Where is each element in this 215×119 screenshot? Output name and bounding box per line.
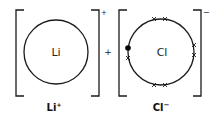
cl-charge: − (203, 8, 210, 17)
li-symbol: Li (51, 46, 60, 59)
cl-symbol: Cl (157, 46, 168, 59)
left-bracket (16, 10, 24, 96)
li-charge: + (101, 9, 107, 17)
plus-operator: + (104, 47, 112, 57)
ionic-bond-diagram: + Li Li+ + − Cl Cl− (0, 0, 215, 119)
cl-ion-label: Cl− (153, 101, 170, 113)
right-bracket (91, 10, 99, 96)
li-ion-label: Li+ (47, 101, 62, 113)
left-bracket (119, 10, 127, 96)
transferred-electron-dot (125, 45, 131, 51)
lithium-ion: + Li Li+ (16, 9, 107, 113)
chloride-ion: − Cl Cl− (119, 8, 210, 113)
